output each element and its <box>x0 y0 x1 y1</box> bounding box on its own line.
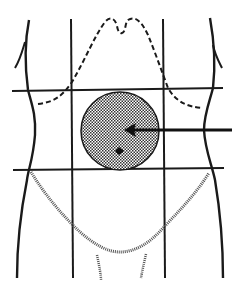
grid-vertical-right <box>163 19 165 278</box>
groin-crease-right <box>141 254 146 278</box>
inguinal-hatched-line <box>31 172 209 252</box>
groin-crease-left <box>97 255 101 280</box>
grid-vertical-left <box>71 19 73 278</box>
abdomen-svg <box>0 0 243 295</box>
body-outline-right <box>204 18 223 278</box>
grid-horizontal-top <box>12 88 223 91</box>
body-outline-left <box>15 20 35 278</box>
abdomen-diagram <box>0 0 243 295</box>
